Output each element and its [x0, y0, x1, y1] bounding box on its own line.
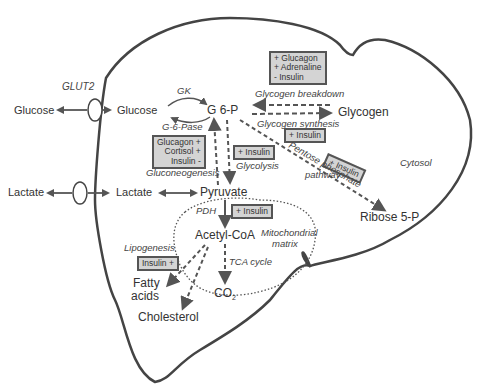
pyruvate-label: Pyruvate [200, 186, 247, 198]
gk-enzyme-label: GK [177, 86, 191, 96]
glut2-label: GLUT2 [62, 82, 94, 92]
co2-text: CO [214, 286, 232, 300]
co2-subscript: 2 [232, 294, 236, 301]
glycogen-label: Glycogen [338, 106, 389, 118]
regulator-insulin: + Insulin [236, 207, 268, 216]
pdh-regulation-box: + Insulin [231, 204, 273, 219]
matrix-label: matrix [272, 239, 298, 249]
cholesterol-label: Cholesterol [138, 311, 199, 323]
lactate-extracellular: Lactate [8, 187, 44, 198]
glycolysis-label: Glycolysis [236, 161, 279, 171]
pentose-pathway-label: pathway [305, 170, 340, 180]
glut2-transporter-lactate [73, 182, 87, 204]
regulator-insulin: Insulin + [142, 259, 174, 268]
gluconeogenesis-regulation-box: Glucagon + Cortisol + Insulin - [152, 135, 206, 169]
lipogenesis-regulation-box: Insulin + [137, 256, 179, 271]
mitochondrial-label: Mitochondrial [261, 228, 318, 238]
glucose-extracellular: Glucose [14, 105, 54, 116]
g6p-label: G 6-P [207, 104, 238, 116]
regulator-insulin: Insulin - [157, 157, 201, 166]
glucose-intracellular: Glucose [117, 105, 157, 116]
fatty-label: Fatty [133, 277, 160, 289]
ribose-5p-label: Ribose 5-P [360, 211, 419, 223]
pdh-enzyme-label: PDH [196, 206, 216, 216]
co2-label: CO2 [214, 287, 236, 301]
regulator-insulin: + Insulin [238, 148, 270, 157]
lactate-intracellular: Lactate [116, 187, 152, 198]
cytosol-label: Cytosol [400, 158, 432, 168]
gluconeogenesis-label: Gluconeogenesis [146, 168, 219, 178]
glycogen-breakdown-regulation-box: + Glucagon + Adrenaline - Insulin [269, 51, 327, 85]
regulator-insulin: - Insulin [274, 73, 322, 82]
lipogenesis-label: Lipogenesis [124, 243, 175, 253]
glycogen-breakdown-label: Glycogen breakdown [255, 89, 344, 99]
glut2-transporter-glucose [88, 99, 102, 121]
acids-label: acids [131, 290, 159, 302]
glycolysis-regulation-box: + Insulin [233, 145, 275, 160]
tca-cycle-label: TCA cycle [229, 257, 272, 267]
g6pase-enzyme-label: G-6-Pase [162, 122, 203, 132]
acetyl-coa-label: Acetyl-CoA [195, 229, 255, 241]
